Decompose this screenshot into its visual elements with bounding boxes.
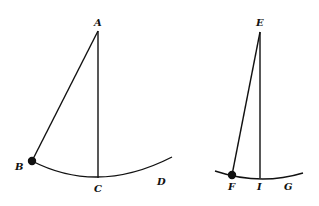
string-EF [232, 32, 260, 175]
label-B: B [14, 161, 23, 172]
label-E: E [255, 17, 264, 28]
label-G: G [284, 181, 293, 192]
bob-B [29, 158, 36, 165]
bob-F [229, 172, 236, 179]
label-I: I [256, 181, 262, 192]
pendulum-diagram: A B C D E F I G [0, 0, 319, 206]
arc-BCD [32, 157, 172, 177]
right-pendulum [215, 32, 303, 179]
left-pendulum [29, 31, 173, 178]
string-AB [32, 31, 98, 161]
label-D: D [156, 176, 166, 187]
label-A: A [93, 17, 102, 28]
label-C: C [94, 183, 102, 194]
label-F: F [227, 181, 236, 192]
